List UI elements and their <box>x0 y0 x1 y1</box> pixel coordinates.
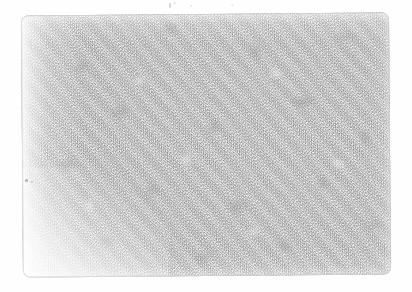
texture-plate-container <box>21 13 391 278</box>
scan-speck-icon <box>31 181 33 183</box>
texture-fade-bottom-left <box>21 166 169 277</box>
scan-speck-icon <box>190 5 192 7</box>
scan-speck-icon <box>174 2 176 4</box>
scan-speck-icon <box>25 179 28 182</box>
screenshot-canvas: Mottled grayscale fiber texture <box>0 0 412 292</box>
scan-speck-icon <box>169 3 171 8</box>
texture-plate <box>21 13 391 278</box>
scan-speck-icon <box>231 4 234 6</box>
